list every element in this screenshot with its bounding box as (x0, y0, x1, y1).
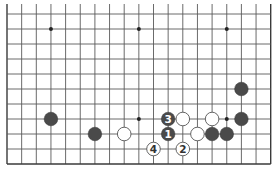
go-board[interactable]: 3142 (0, 0, 276, 178)
black-stone[interactable] (220, 127, 234, 141)
black-stone[interactable] (235, 82, 249, 96)
white-stone[interactable] (176, 112, 190, 126)
black-stone[interactable] (44, 112, 58, 126)
star-point-icon (49, 27, 53, 31)
white-stone-icon (205, 112, 219, 126)
white-stone-icon (191, 127, 205, 141)
white-stone-icon (117, 127, 131, 141)
black-stone-icon (220, 127, 234, 141)
black-stone-move-1[interactable]: 1 (161, 127, 175, 141)
white-stone-move-4[interactable]: 4 (147, 142, 161, 156)
move-number-label: 3 (164, 113, 171, 125)
white-stone[interactable] (117, 127, 131, 141)
black-stone-move-3[interactable]: 3 (161, 112, 175, 126)
star-point-icon (137, 27, 141, 31)
black-stone[interactable] (235, 112, 249, 126)
white-stone[interactable] (205, 112, 219, 126)
black-stone[interactable] (205, 127, 219, 141)
black-stone-icon (235, 82, 249, 96)
black-stone-icon (88, 127, 102, 141)
white-stone-move-2[interactable]: 2 (176, 142, 190, 156)
black-stone-icon (205, 127, 219, 141)
move-number-label: 4 (150, 143, 157, 155)
white-stone[interactable] (191, 127, 205, 141)
star-point-icon (137, 117, 141, 121)
white-stone-icon (176, 112, 190, 126)
star-point-icon (225, 27, 229, 31)
star-point-icon (225, 117, 229, 121)
move-number-label: 2 (179, 143, 186, 155)
black-stone[interactable] (88, 127, 102, 141)
move-number-label: 1 (164, 128, 171, 140)
black-stone-icon (44, 112, 58, 126)
black-stone-icon (235, 112, 249, 126)
